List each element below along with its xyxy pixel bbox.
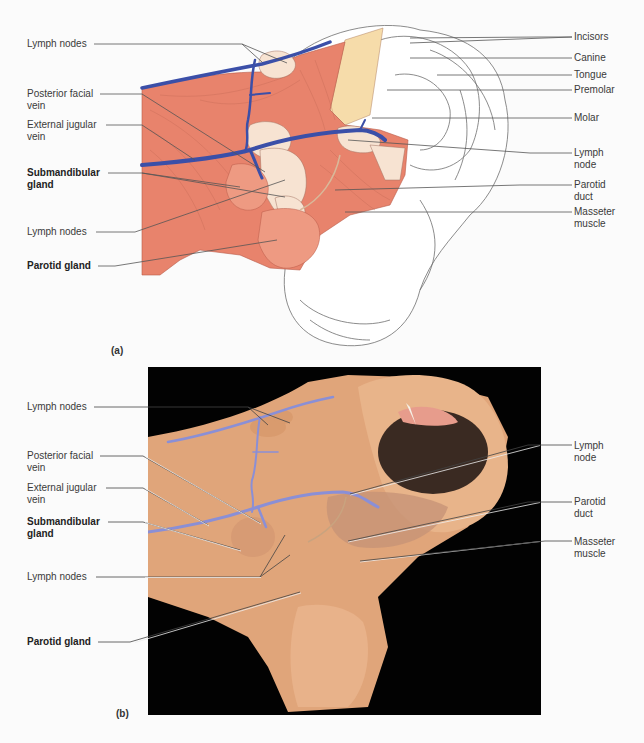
- label-a-external-jugular-vein: External jugular vein: [27, 119, 96, 143]
- label-b-external-jugular-vein: External jugular vein: [27, 482, 96, 506]
- label-a-lymph-nodes-bottom: Lymph nodes: [27, 226, 87, 238]
- label-a-lymph-node: Lymph node: [574, 147, 604, 171]
- submandibular-gland-photo: [231, 517, 275, 557]
- label-a-posterior-facial-vein: Posterior facial vein: [27, 88, 93, 112]
- label-a-molar: Molar: [574, 112, 599, 124]
- label-a-parotid-gland: Parotid gland: [27, 260, 91, 272]
- cat-dissection-photo: [148, 367, 541, 715]
- label-a-parotid-duct: Parotid duct: [574, 179, 606, 203]
- label-b-lymph-nodes-bottom: Lymph nodes: [27, 571, 87, 583]
- label-b-parotid-gland: Parotid gland: [27, 636, 91, 648]
- label-a-submandibular-gland: Submandibular gland: [27, 167, 100, 191]
- label-a-lymph-nodes-top: Lymph nodes: [27, 38, 87, 50]
- label-b-lymph-node: Lymph node: [574, 440, 604, 464]
- label-b-masseter-muscle: Masseter muscle: [574, 536, 615, 560]
- label-a-masseter-muscle: Masseter muscle: [574, 206, 615, 230]
- label-a-premolar: Premolar: [574, 84, 615, 96]
- panel-b-photograph: [148, 367, 541, 715]
- label-a-tongue: Tongue: [574, 69, 607, 81]
- label-b-submandibular-gland: Submandibular gland: [27, 516, 100, 540]
- label-b-parotid-duct: Parotid duct: [574, 496, 606, 520]
- label-b-posterior-facial-vein: Posterior facial vein: [27, 450, 93, 474]
- panel-a-letter: (a): [111, 345, 123, 356]
- panel-b-letter: (b): [116, 708, 129, 719]
- label-b-lymph-nodes-top: Lymph nodes: [27, 401, 87, 413]
- label-a-incisors: Incisors: [574, 31, 608, 43]
- label-a-canine: Canine: [574, 52, 606, 64]
